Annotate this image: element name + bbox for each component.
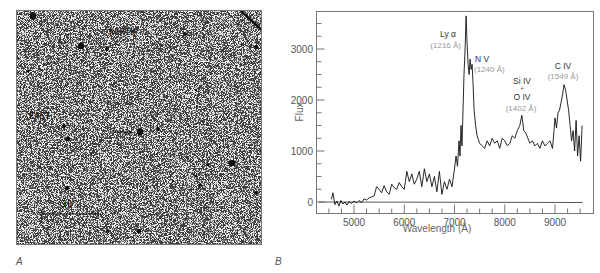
x-axis-label: Wavelength (Å) [403,222,472,234]
zero-baseline [319,202,583,203]
y-tick-label: 1000 [291,146,314,157]
plus-label: + [520,85,524,92]
x-tick-label: 8000 [494,217,517,228]
spectrum-chart: 0100020003000 50006000700080009000 Wavel… [0,0,600,273]
n-v-wavelength: (1240 Å) [474,65,505,74]
y-axis-label: Flux [294,103,305,122]
y-tick-label: 3000 [291,44,314,55]
c-iv-wavelength: (1549 Å) [548,72,579,81]
o-iv-label: O IV [513,92,530,102]
ly-alpha-wavelength: (1216 Å) [430,41,461,50]
n-v-label: N V [475,54,490,64]
annotation-ly-alpha: Ly α (1216 Å) [430,29,461,50]
x-tick-label: 5000 [343,217,366,228]
si-iv-o-iv-wavelength: (1402 Å) [506,104,537,113]
x-tick-label: 9000 [544,217,567,228]
ly-alpha-label: Ly α [440,29,456,39]
annotation-si-iv-o-iv: Si IV + O IV (1402 Å) [506,76,537,113]
c-iv-label: C IV [555,61,572,71]
annotation-c-iv: C IV (1549 Å) [548,61,579,81]
y-tick-label: 0 [307,197,313,208]
annotation-n-v: N V (1240 Å) [474,54,505,74]
